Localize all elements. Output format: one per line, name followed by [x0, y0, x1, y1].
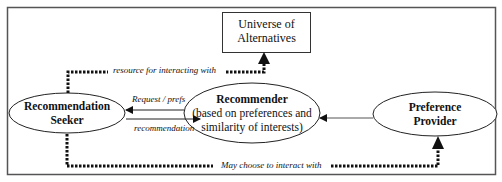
seeker-line1: Recommendation	[9, 99, 125, 113]
provider-node-label: Preference Provider	[373, 100, 497, 128]
universe-line2: Alternatives	[222, 31, 311, 45]
request-edge-label: Request / prefs	[132, 94, 185, 104]
recommender-line2: (based on preferences and	[184, 106, 320, 120]
arrow-up-icon	[432, 136, 444, 149]
recommender-node-label: Recommender (based on preferences and si…	[184, 92, 320, 134]
provider-line2: Provider	[373, 114, 497, 128]
may-choose-edge-label: May choose to interact with	[221, 160, 321, 170]
arrow-up-icon	[258, 52, 270, 64]
universe-node-label: Universe of Alternatives	[222, 17, 311, 45]
provider-line1: Preference	[373, 100, 497, 114]
resource-edge-label: resource for interacting with	[113, 65, 216, 75]
recommender-line1: Recommender	[184, 92, 320, 106]
recommendation-system-diagram: Universe of Alternatives Recommendation …	[0, 0, 502, 182]
seeker-line2: Seeker	[9, 113, 125, 127]
seeker-node-label: Recommendation Seeker	[9, 99, 125, 127]
recommendation-edge-label: recommendation	[134, 123, 194, 133]
universe-line1: Universe of	[222, 17, 311, 31]
recommender-line3: similarity of interests)	[184, 120, 320, 134]
